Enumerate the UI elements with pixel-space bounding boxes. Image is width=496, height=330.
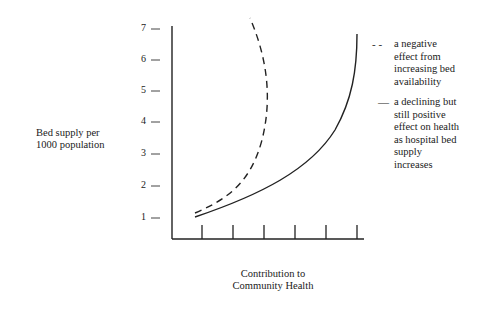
legend-label-line: effect from: [394, 51, 496, 64]
y-tick-label: 2: [132, 179, 146, 190]
solid-line-swatch-icon: —: [378, 96, 389, 109]
dashed-line-swatch-icon: - -: [372, 38, 382, 51]
x-axis-title-line: Contribution to: [208, 268, 338, 280]
y-tick-label: 7: [132, 22, 146, 33]
y-axis-title-line: 1000 population: [36, 139, 105, 151]
y-tick-label: 3: [132, 147, 146, 158]
legend-label-line: increases: [394, 159, 496, 172]
x-axis-title: Contribution to Community Health: [208, 268, 338, 292]
y-tick-label: 6: [132, 53, 146, 64]
y-axis-title: Bed supply per 1000 population: [36, 127, 105, 151]
legend-item-solid: — a declining but still positive effect …: [378, 96, 496, 174]
legend-label-line: as hospital bed: [394, 134, 496, 147]
legend-label-line: effect on health: [394, 121, 496, 134]
positive-effect-curve: [195, 34, 357, 217]
y-axis-title-line: Bed supply per: [36, 127, 105, 139]
x-tick-marks: [202, 225, 357, 239]
legend-label: a negative effect from increasing bed av…: [394, 38, 496, 88]
legend-label: a declining but still positive effect on…: [394, 96, 496, 171]
y-tick-marks: [151, 29, 160, 218]
legend-label-line: a declining but: [394, 96, 496, 109]
legend-label-line: still positive: [394, 109, 496, 122]
y-tick-label: 1: [132, 211, 146, 222]
legend-label-line: supply: [394, 146, 496, 159]
legend-item-dashed: - - a negative effect from increasing be…: [372, 38, 496, 90]
y-tick-label: 5: [132, 84, 146, 95]
x-axis-title-line: Community Health: [208, 280, 338, 292]
legend-label-line: increasing bed: [394, 63, 496, 76]
negative-effect-curve: [195, 18, 267, 213]
legend-label-line: availability: [394, 76, 496, 89]
legend-label-line: a negative: [394, 38, 496, 51]
y-tick-label: 4: [132, 115, 146, 126]
